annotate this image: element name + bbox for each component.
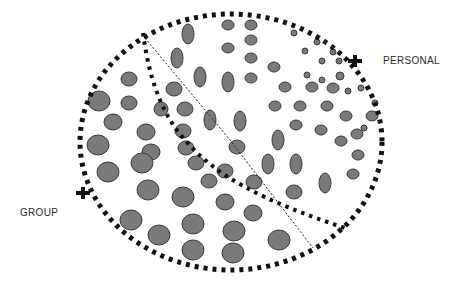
population-dot xyxy=(244,205,262,221)
population-dots xyxy=(87,20,378,263)
population-dot xyxy=(286,185,302,199)
population-dot xyxy=(314,39,320,45)
population-dot xyxy=(245,53,257,63)
population-dot xyxy=(188,156,204,170)
population-dot xyxy=(171,48,183,68)
population-dot xyxy=(154,102,168,116)
population-dot xyxy=(290,154,302,174)
population-dot xyxy=(216,194,234,210)
population-dot xyxy=(137,124,155,140)
population-dot xyxy=(87,135,109,155)
population-dot xyxy=(294,101,306,111)
population-dot xyxy=(352,150,364,160)
population-dot xyxy=(194,67,206,87)
population-dot xyxy=(223,221,245,241)
population-dot xyxy=(222,243,244,263)
population-dot xyxy=(204,110,216,130)
population-dot xyxy=(234,111,246,131)
population-dot xyxy=(347,169,359,179)
population-dot xyxy=(182,24,194,44)
diagram-canvas xyxy=(0,0,461,283)
population-dot xyxy=(361,125,367,131)
group-marker-cross-icon xyxy=(76,187,90,199)
population-dot xyxy=(306,82,318,92)
population-dot xyxy=(321,101,333,111)
population-dot xyxy=(340,111,352,121)
population-dot xyxy=(345,88,351,94)
personal-label: PERSONAL xyxy=(383,55,440,66)
population-dot xyxy=(358,85,364,91)
population-dot xyxy=(166,82,182,96)
population-dot xyxy=(148,225,170,245)
population-dot xyxy=(222,72,234,92)
population-dot xyxy=(104,114,122,130)
population-dot xyxy=(121,96,137,110)
population-dot xyxy=(351,129,363,139)
population-dot xyxy=(201,174,217,188)
population-dot xyxy=(304,72,310,78)
population-dot xyxy=(319,173,331,193)
population-dot xyxy=(302,48,308,54)
population-dot xyxy=(336,72,344,80)
population-dot xyxy=(290,120,302,130)
population-dot xyxy=(319,58,325,64)
group-label: GROUP xyxy=(20,207,58,218)
population-dot xyxy=(319,77,325,83)
population-dot xyxy=(268,230,290,250)
population-dot xyxy=(245,35,257,45)
population-dot xyxy=(245,73,257,83)
population-dot xyxy=(120,210,142,230)
population-dot xyxy=(182,214,204,234)
population-dot xyxy=(291,30,297,36)
population-dot xyxy=(245,20,257,30)
population-dot xyxy=(97,162,119,182)
thin-dotted-divider xyxy=(145,38,313,248)
population-dot xyxy=(222,43,234,53)
population-dot xyxy=(327,83,339,93)
population-dot xyxy=(268,62,280,72)
population-dot xyxy=(262,154,274,174)
population-dot xyxy=(269,101,281,111)
population-dot xyxy=(172,187,194,207)
population-dot xyxy=(315,125,327,135)
population-dot xyxy=(177,102,193,116)
population-dot xyxy=(222,20,234,30)
population-dot xyxy=(336,58,342,64)
population-dot xyxy=(182,240,204,260)
population-dot xyxy=(229,140,245,154)
population-dot xyxy=(131,153,153,173)
population-dot xyxy=(121,72,137,86)
population-dot xyxy=(279,82,291,92)
population-dot xyxy=(335,136,347,146)
population-dot xyxy=(137,180,159,200)
population-dot xyxy=(272,130,284,150)
